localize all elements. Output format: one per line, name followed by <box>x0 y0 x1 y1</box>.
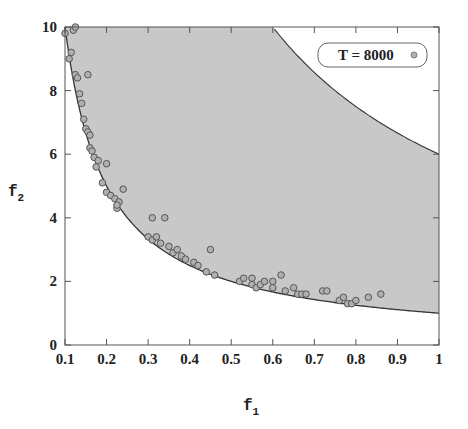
data-point <box>80 116 87 123</box>
data-point <box>269 278 276 285</box>
data-point <box>282 288 289 295</box>
data-point <box>240 275 247 282</box>
x-tick-label: 0.2 <box>97 351 116 367</box>
data-point <box>365 294 372 301</box>
data-point <box>149 215 156 222</box>
legend-marker-icon <box>411 52 417 58</box>
data-point <box>166 243 173 250</box>
y-tick-label: 8 <box>50 83 58 99</box>
x-tick-label: 1 <box>435 351 443 367</box>
data-point <box>157 240 164 247</box>
data-point <box>85 71 92 78</box>
x-tick-label: 0.7 <box>305 351 324 367</box>
data-point <box>290 284 297 291</box>
legend: T = 8000 <box>318 43 427 67</box>
x-axis-label: f1 <box>243 397 260 418</box>
y-tick-label: 6 <box>50 146 58 162</box>
y-tick-label: 2 <box>50 273 58 289</box>
data-point <box>93 164 100 171</box>
x-tick-label: 0.6 <box>263 351 282 367</box>
data-point <box>195 262 202 269</box>
data-point <box>68 49 75 56</box>
data-point <box>153 234 160 241</box>
y-tick-label: 10 <box>42 19 57 35</box>
data-point <box>99 180 106 187</box>
x-tick-label: 0.5 <box>222 351 241 367</box>
data-point <box>207 246 214 253</box>
data-point <box>249 275 256 282</box>
data-point <box>261 278 268 285</box>
data-point <box>174 246 181 253</box>
data-point <box>203 269 210 276</box>
x-tick-label: 0.9 <box>388 351 407 367</box>
data-point <box>74 75 81 82</box>
data-point <box>66 56 73 63</box>
x-tick-label: 0.1 <box>56 351 75 367</box>
data-point <box>103 160 110 167</box>
data-point <box>278 272 285 279</box>
x-tick-label: 0.8 <box>347 351 366 367</box>
y-tick-label: 0 <box>50 337 58 353</box>
x-tick-label: 0.3 <box>139 351 158 367</box>
svg-text:f2: f2 <box>8 183 24 204</box>
data-point <box>114 202 121 209</box>
data-point <box>120 186 127 193</box>
data-point <box>269 284 276 291</box>
y-tick-label: 4 <box>50 210 58 226</box>
data-point <box>89 148 96 155</box>
legend-label: T = 8000 <box>338 47 394 63</box>
data-point <box>182 256 189 263</box>
y-axis-label: f2 <box>8 183 24 204</box>
data-point <box>303 291 310 298</box>
data-point <box>340 294 347 301</box>
data-point <box>161 215 168 222</box>
feasible-region <box>65 27 439 313</box>
data-point <box>324 288 331 295</box>
x-tick-label: 0.4 <box>180 351 199 367</box>
svg-text:f1: f1 <box>243 397 260 418</box>
data-point <box>76 90 83 97</box>
data-point <box>353 297 360 304</box>
data-point <box>78 100 85 107</box>
data-point <box>211 272 218 279</box>
feasible-area <box>65 27 439 313</box>
data-point <box>87 132 94 139</box>
data-point <box>95 157 102 164</box>
data-point <box>378 291 385 298</box>
scatter-chart: 0.10.20.30.40.50.60.70.80.910246810 f1 f… <box>0 0 468 429</box>
